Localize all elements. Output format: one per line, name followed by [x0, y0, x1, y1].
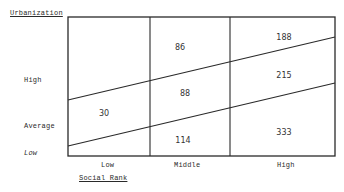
row-label-low: Low [24, 149, 37, 157]
cell-high-average: 215 [276, 71, 291, 80]
row-label-average: Average [24, 122, 55, 130]
row-label-high: High [24, 76, 42, 84]
cell-middle-low: 114 [175, 136, 190, 145]
outer-border [68, 17, 335, 156]
cell-high-high: 188 [276, 33, 291, 42]
x-axis-title: Social Rank [79, 174, 127, 182]
y-axis-title: Urbanization [10, 9, 63, 17]
boundary-high-average [68, 37, 335, 100]
cell-middle-average: 88 [180, 89, 190, 98]
cell-middle-high: 86 [175, 43, 185, 52]
cell-low-average: 30 [99, 109, 109, 118]
cell-high-low: 333 [276, 128, 291, 137]
column-label-middle: Middle [174, 161, 200, 169]
column-label-high: High [277, 161, 295, 169]
column-label-low: Low [101, 161, 114, 169]
